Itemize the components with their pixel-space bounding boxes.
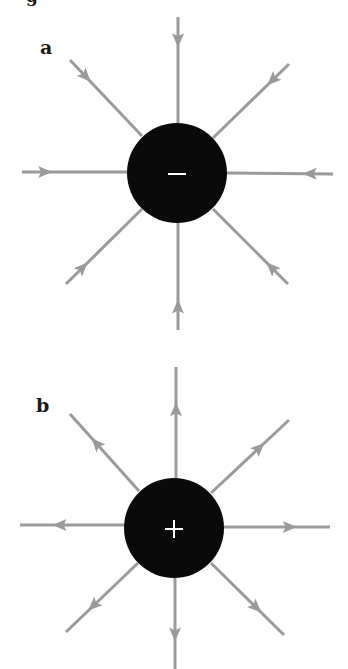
field-line-bottom-left [66, 563, 138, 632]
field-line-top-right [211, 420, 289, 493]
electric-field-figure: g a b [0, 0, 348, 669]
field-line-top-left [70, 414, 139, 491]
panel-b-positive-charge-field [0, 0, 348, 669]
field-line-bottom-right [211, 563, 284, 635]
